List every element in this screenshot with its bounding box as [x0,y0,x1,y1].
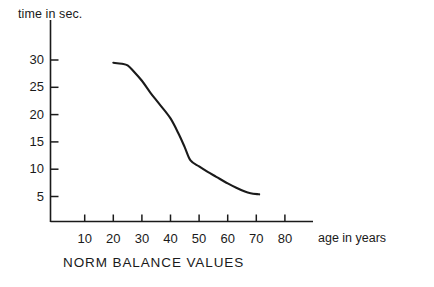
y-tick-label: 10 [18,162,44,175]
axes-group [51,20,314,222]
y-tick-label: 30 [18,53,44,66]
x-tick-label: 20 [100,232,126,245]
x-tick-label: 30 [129,232,155,245]
x-axis-title: age in years [318,232,386,245]
x-tick-label: 80 [272,232,298,245]
chart-caption: NORM BALANCE VALUES [63,256,244,270]
chart-container: time in sec. 51015202530 102030405060708… [0,0,434,287]
x-tick-label: 10 [72,232,98,245]
x-tick-label: 50 [186,232,212,245]
y-tick-label: 25 [18,80,44,93]
data-series-line [113,63,259,195]
y-tick-label: 20 [18,108,44,121]
y-tick-label: 15 [18,135,44,148]
y-tick-marks [51,60,59,197]
y-tick-label: 5 [18,190,44,203]
x-tick-marks [85,215,285,222]
x-tick-label: 40 [158,232,184,245]
x-tick-label: 60 [215,232,241,245]
x-tick-label: 70 [243,232,269,245]
